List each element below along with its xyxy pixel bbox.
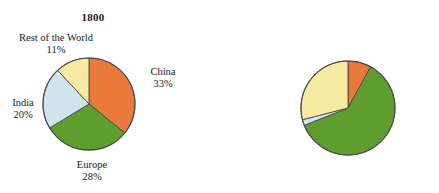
panel-1800: 1800 Rest of the World 11% China 33% Ind… — [0, 0, 220, 193]
pie-1800-label-india-name: India — [2, 97, 44, 109]
panel-1900: 1900 China 8% Rest of the World 29% Indi… — [220, 0, 439, 193]
pie-1800-label-china-name: China — [140, 66, 186, 78]
pie-1800-label-europe-name: Europe — [62, 159, 122, 171]
pie-1800-label-china-value: 33% — [140, 78, 186, 90]
pie-1800-label-rest-of-the-world-name: Rest of the World — [6, 32, 106, 44]
pie-1800-label-rest-of-the-world: Rest of the World 11% — [6, 32, 106, 55]
pie-1800-label-india: India 20% — [2, 97, 44, 120]
pie-1800-label-china: China 33% — [140, 66, 186, 89]
pie-1800-label-india-value: 20% — [2, 109, 44, 121]
pie-chart-figure: 1800 Rest of the World 11% China 33% Ind… — [0, 0, 439, 193]
pie-1800-label-europe-value: 28% — [62, 171, 122, 183]
pie-1800-label-rest-of-the-world-value: 11% — [6, 44, 106, 56]
pie-1800-label-europe: Europe 28% — [62, 159, 122, 182]
chart-title-1800: 1800 — [60, 11, 126, 23]
